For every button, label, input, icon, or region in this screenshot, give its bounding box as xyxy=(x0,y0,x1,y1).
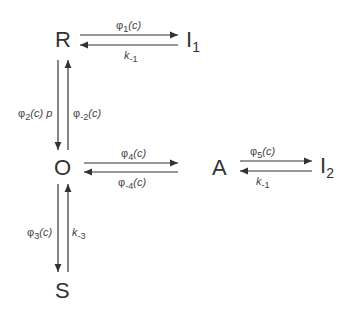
label-k-minus1-top: k-1 xyxy=(124,49,138,65)
label-phi-minus4: φ-4(c) xyxy=(118,176,146,192)
reaction-scheme-diagram: R I1 O A I2 S φ1(c) k-1 φ2(c) p φ-2(c) φ… xyxy=(0,0,352,316)
label-phi-minus2: φ-2(c) xyxy=(73,107,101,123)
label-phi5: φ5(c) xyxy=(250,145,275,161)
label-phi3: φ3(c) xyxy=(27,226,52,242)
node-a: A xyxy=(212,157,227,179)
node-i1: I1 xyxy=(186,29,200,58)
label-phi2-p: φ2(c) p xyxy=(18,107,52,123)
label-phi1: φ1(c) xyxy=(116,19,141,35)
node-s: S xyxy=(55,280,70,302)
arrows-layer xyxy=(0,0,352,316)
node-i2: I2 xyxy=(320,155,334,184)
label-phi4: φ4(c) xyxy=(121,147,146,163)
label-k-minus3: k-3 xyxy=(72,226,86,242)
node-o: O xyxy=(54,157,71,179)
label-k-minus1-right: k-1 xyxy=(256,175,270,191)
node-r: R xyxy=(55,29,71,51)
